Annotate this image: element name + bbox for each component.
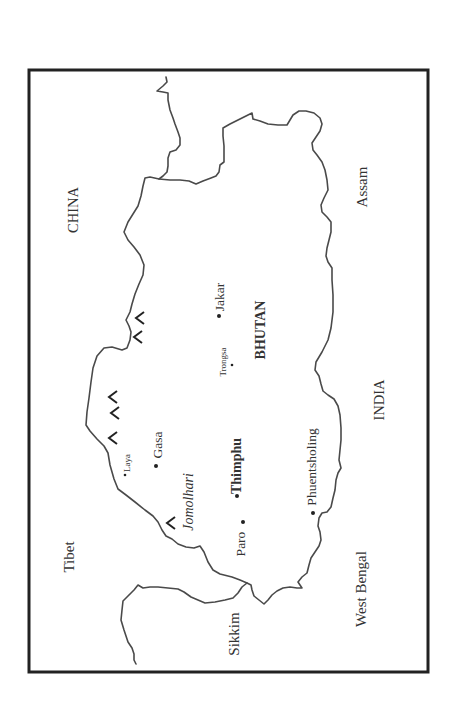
country-label-bhutan: BHUTAN: [253, 301, 268, 360]
region-label-sikkim: Sikkim: [226, 612, 242, 656]
region-label-assam: Assam: [354, 166, 370, 207]
region-label-india: INDIA: [371, 379, 387, 421]
place-dot: [311, 511, 315, 515]
china-assam-boundary: [157, 77, 180, 179]
mountain-icon: [109, 391, 117, 403]
place-gasa: Gasa: [150, 432, 165, 469]
place-label-thimphu: Thimphu: [229, 438, 244, 494]
place-dot: [154, 464, 158, 468]
place-dot: [124, 474, 127, 477]
place-dot: [241, 520, 245, 524]
place-laya: Laya: [122, 454, 132, 476]
place-phuentsholing: Phuentsholing: [304, 428, 319, 515]
place-label-jakar: Jakar: [212, 282, 227, 311]
place-thimphu: Thimphu: [229, 438, 244, 498]
place-label-paro: Paro: [233, 531, 248, 556]
place-paro: Paro: [233, 520, 248, 556]
mountain-icon: [136, 312, 144, 324]
mountain-symbols: [109, 312, 175, 529]
bhutan-map: CHINA Tibet Assam INDIA West Bengal Sikk…: [0, 0, 454, 715]
bhutan-border: [86, 111, 341, 604]
place-label-laya: Laya: [122, 454, 132, 472]
mountain-icon: [167, 517, 175, 529]
feature-label-jomolhari: Jomolhari: [181, 473, 196, 531]
place-dot: [217, 314, 221, 318]
region-label-west-bengal: West Bengal: [353, 551, 369, 627]
mountain-icon: [111, 407, 119, 419]
region-label-china: CHINA: [65, 187, 81, 233]
place-jakar: Jakar: [212, 282, 227, 318]
mountain-icon: [109, 432, 117, 444]
place-dot: [231, 364, 234, 367]
place-label-trongsa: Trongsa: [218, 347, 228, 376]
region-label-tibet: Tibet: [61, 541, 77, 573]
place-label-gasa: Gasa: [150, 432, 165, 459]
place-label-phuentsholing: Phuentsholing: [304, 428, 319, 506]
place-trongsa: Trongsa: [218, 347, 233, 376]
mountain-icon: [134, 331, 142, 343]
